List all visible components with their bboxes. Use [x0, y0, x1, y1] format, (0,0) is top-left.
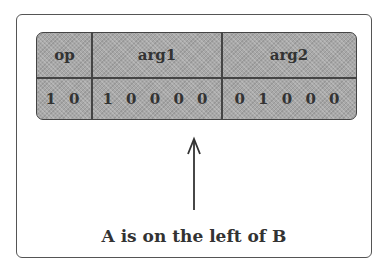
- header-arg1: arg1: [92, 33, 222, 77]
- instruction-format-table: op arg1 arg2 1 0 1 0 0 0 0 0 1 0 0 0: [36, 32, 357, 120]
- up-arrow-icon: [184, 136, 204, 212]
- column-divider: [91, 33, 93, 119]
- header-arg2: arg2: [222, 33, 356, 77]
- value-op: 1 0: [37, 77, 92, 120]
- header-op: op: [37, 33, 92, 77]
- value-arg2: 0 1 0 0 0: [222, 77, 356, 120]
- row-divider: [37, 77, 356, 79]
- column-divider: [221, 33, 223, 119]
- value-arg1: 1 0 0 0 0: [92, 77, 222, 120]
- caption: A is on the left of B: [16, 226, 372, 246]
